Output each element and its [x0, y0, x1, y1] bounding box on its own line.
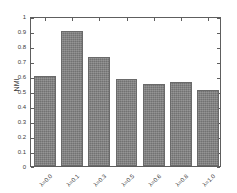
y-tick-label: 0.2 — [18, 134, 26, 140]
bar — [116, 79, 138, 166]
y-tick-label: 0.6 — [18, 74, 26, 80]
plot-area — [30, 17, 221, 167]
bar — [61, 31, 83, 166]
bar — [88, 57, 110, 167]
bar-chart-figure: NMI 00.10.20.30.40.50.60.70.80.91 λ=0.0λ… — [0, 0, 237, 193]
y-tick-label: 1 — [23, 14, 26, 20]
y-tick-label: 0.8 — [18, 44, 26, 50]
x-tick-label: λ=0.0 — [20, 173, 53, 193]
y-tick-label: 0.3 — [18, 119, 26, 125]
y-tick-label: 0.7 — [18, 59, 26, 65]
bar-series — [31, 18, 220, 166]
y-tick-label: 0.9 — [18, 29, 26, 35]
x-tick-label: λ=0.5 — [102, 173, 135, 193]
y-axis-tick-labels: 00.10.20.30.40.50.60.70.80.91 — [9, 12, 28, 172]
x-tick-label: λ=1.0 — [184, 173, 217, 193]
y-tick-label: 0 — [23, 164, 26, 170]
bar — [170, 82, 192, 166]
x-axis-tick-labels: λ=0.0λ=0.1λ=0.3λ=0.5λ=0.6λ=0.8λ=1.0 — [30, 167, 221, 193]
y-tick-label: 0.1 — [18, 149, 26, 155]
y-tick-label: 0.5 — [18, 89, 26, 95]
bar — [34, 76, 56, 166]
bar — [143, 84, 165, 167]
bar — [197, 90, 219, 166]
y-tick-label: 0.4 — [18, 104, 26, 110]
